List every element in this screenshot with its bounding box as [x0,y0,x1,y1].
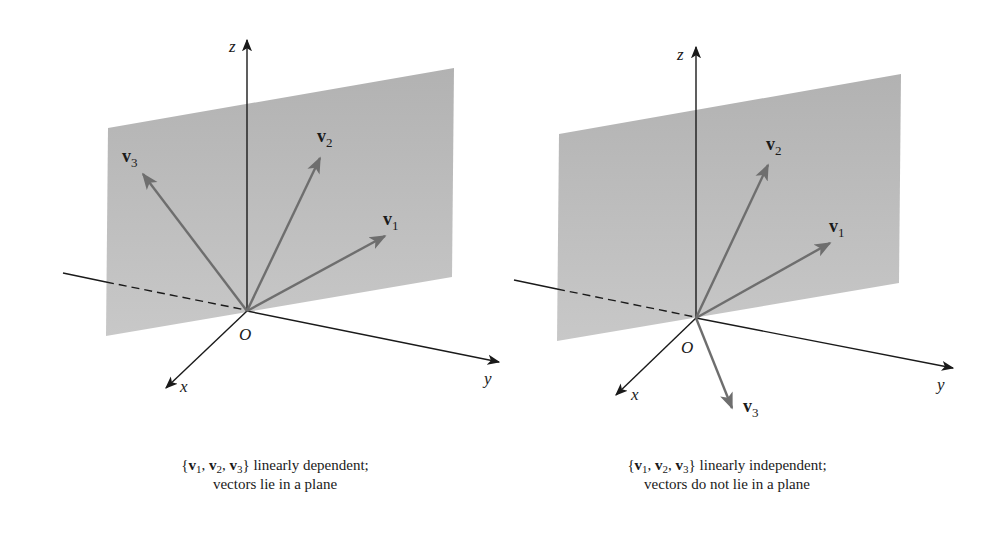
x-axis-back-solid [63,273,106,282]
plane [106,68,454,336]
y-axis [696,318,953,368]
vector-v3 [696,318,732,408]
caption-line-1: {v1, v2, v3} linearly dependent; [120,456,430,475]
vector-v3-label: v3 [743,396,759,420]
origin-label: O [239,325,251,344]
caption-line-1: {v1, v2, v3} linearly independent; [572,456,882,475]
caption-dependent: {v1, v2, v3} linearly dependent; vectors… [120,456,430,494]
x-axis-label: x [630,385,639,404]
z-axis-label: z [228,37,236,56]
figure-independent: z y x O v1 v2 v3 [514,45,953,420]
caption-line-2: vectors do not lie in a plane [572,475,882,494]
y-axis-label: y [482,369,492,388]
y-axis [247,311,499,362]
z-axis-label: z [676,45,684,64]
origin-label: O [681,338,693,357]
y-axis-label: y [935,375,945,394]
figure-dependent: z y x O v1 v2 v3 [63,37,499,396]
caption-independent: {v1, v2, v3} linearly independent; vecto… [572,456,882,494]
x-axis-label: x [179,377,188,396]
plane [557,74,901,341]
caption-line-2: vectors lie in a plane [120,475,430,494]
x-axis-back-solid [514,280,557,289]
